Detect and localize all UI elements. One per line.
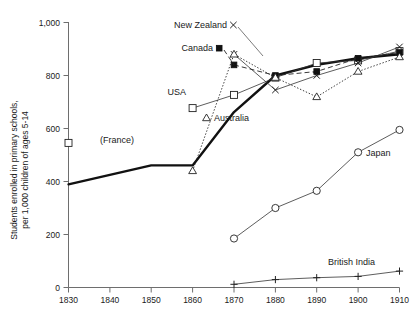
line-chart: 0 200 400 600 800 1,000 1830 1840 1850 1…	[0, 0, 413, 323]
japan-marker-1880	[272, 204, 279, 211]
label-new-zealand-leader	[238, 27, 263, 56]
label-british-india: British India	[328, 257, 375, 267]
y-tick-label-800: 800	[46, 71, 60, 81]
y-axis-title-line2: per 1,000 children of ages 5-14	[20, 111, 30, 229]
label-australia-marker-icon	[203, 114, 211, 121]
label-new-zealand: New Zealand	[174, 20, 227, 30]
australia-marker-1890	[313, 93, 321, 100]
series-japan	[230, 126, 403, 242]
label-france: (France)	[100, 135, 134, 145]
label-british-india-group: British India	[328, 257, 375, 267]
label-japan: Japan	[366, 148, 391, 158]
japan-marker-1870	[230, 235, 237, 242]
nz-marker-1880	[272, 87, 278, 93]
label-canada: Canada	[181, 43, 213, 53]
x-tick-label-1840: 1840	[100, 295, 119, 305]
series-start-marker-1830	[65, 139, 72, 146]
series-british-india	[230, 268, 403, 288]
x-tick-label-1860: 1860	[183, 295, 202, 305]
label-canada-marker-icon	[216, 45, 222, 51]
british-india-marker-1890	[313, 274, 320, 281]
label-usa-group: USA	[167, 87, 186, 97]
usa-marker-1860	[189, 105, 196, 112]
label-japan-group: Japan	[366, 148, 391, 158]
y-tick-label-0: 0	[55, 283, 60, 293]
x-tick-label-1900: 1900	[349, 295, 368, 305]
label-canada-group: Canada	[181, 43, 234, 65]
chart-figure: 0 200 400 600 800 1,000 1830 1840 1850 1…	[0, 0, 413, 323]
british-india-marker-1870	[230, 281, 237, 288]
australia-marker-1900	[354, 68, 362, 75]
label-new-zealand-marker-icon	[230, 22, 236, 28]
usa-line	[193, 51, 400, 108]
japan-line	[234, 130, 400, 239]
canada-marker-1890	[314, 69, 320, 75]
x-tick-label-1910: 1910	[390, 295, 409, 305]
british-india-marker-1900	[355, 273, 362, 280]
y-axis-title-line1: Students enrolled in primary schools,	[9, 100, 19, 239]
x-tick-label-1890: 1890	[307, 295, 326, 305]
label-france-group: (France)	[100, 135, 134, 145]
usa-marker-1890	[313, 60, 320, 67]
canada-marker-1900	[355, 56, 361, 62]
label-australia: Australia	[214, 113, 249, 123]
japan-marker-1900	[355, 149, 362, 156]
y-tick-label-600: 600	[46, 124, 60, 134]
series-usa	[189, 48, 403, 112]
japan-marker-1890	[313, 187, 320, 194]
x-tick-label-1880: 1880	[266, 295, 285, 305]
y-tick-label-1000: 1,000	[39, 18, 61, 28]
japan-marker-1910	[396, 126, 403, 133]
australia-marker-1860	[189, 167, 197, 174]
y-axis-ticks: 0 200 400 600 800 1,000	[39, 18, 69, 293]
x-tick-label-1850: 1850	[142, 295, 161, 305]
x-tick-label-1830: 1830	[59, 295, 78, 305]
label-usa: USA	[167, 87, 186, 97]
x-tick-label-1870: 1870	[225, 295, 244, 305]
y-axis-title: Students enrolled in primary schools, pe…	[9, 100, 30, 239]
y-tick-label-400: 400	[46, 177, 60, 187]
usa-marker-1870	[231, 91, 238, 98]
british-india-marker-1910	[396, 268, 403, 275]
label-australia-group: Australia	[203, 113, 249, 123]
france-marker-1830	[65, 139, 72, 146]
british-india-marker-1880	[272, 276, 279, 283]
x-axis-ticks: 1830 1840 1850 1860 1870 1880 1890 1900 …	[59, 288, 409, 306]
y-tick-label-200: 200	[46, 230, 60, 240]
